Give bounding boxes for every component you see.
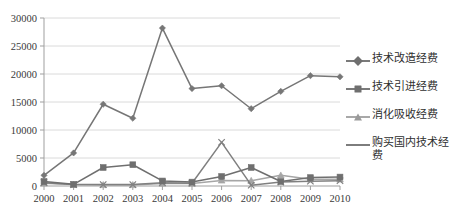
data-point xyxy=(219,174,225,180)
series-1 xyxy=(41,162,343,187)
legend-item-3[interactable]: 购买国内技术经费 xyxy=(346,136,457,162)
x-axis-tick-label: 2004 xyxy=(152,193,174,204)
data-point xyxy=(160,178,166,184)
legend-label: 技术改造经费 xyxy=(370,52,438,65)
legend-label: 消化吸收经费 xyxy=(370,108,438,121)
legend-item-1[interactable]: 技术引进经费 xyxy=(346,80,457,97)
x-axis-tick-label: 2009 xyxy=(300,193,321,204)
y-axis-tick-label: 25000 xyxy=(11,41,37,52)
data-point xyxy=(308,175,314,181)
x-axis-tick-label: 2000 xyxy=(34,193,55,204)
x-axis-tick-label: 2003 xyxy=(122,193,143,204)
y-axis-tick-label: 5000 xyxy=(16,153,37,164)
square-marker-icon xyxy=(346,82,370,96)
data-point xyxy=(130,162,136,168)
data-point xyxy=(307,73,313,79)
diamond-marker-icon xyxy=(346,54,370,68)
legend-label: 技术引进经费 xyxy=(370,80,438,93)
data-point xyxy=(248,165,254,171)
x-axis-tick-label: 2005 xyxy=(182,193,203,204)
data-point xyxy=(189,179,195,185)
y-axis-tick-label: 20000 xyxy=(11,69,37,80)
data-point xyxy=(159,25,165,31)
data-point xyxy=(218,139,224,145)
data-point xyxy=(100,165,106,171)
data-point xyxy=(278,179,284,185)
y-axis-tick-label: 10000 xyxy=(11,125,37,136)
x-axis-tick-label: 2006 xyxy=(211,193,232,204)
data-point xyxy=(278,88,284,94)
triangle-marker-icon xyxy=(346,110,370,124)
y-axis-tick-label: 30000 xyxy=(11,13,37,24)
y-axis-tick-label: 15000 xyxy=(11,97,37,108)
data-point xyxy=(41,179,47,185)
x-axis-tick-label: 2010 xyxy=(330,193,351,204)
data-point xyxy=(71,181,77,187)
legend-label: 购买国内技术经费 xyxy=(370,136,454,162)
line-marker-icon xyxy=(346,138,370,152)
data-point xyxy=(337,174,343,180)
y-axis-tick-label: 0 xyxy=(32,181,37,192)
legend-item-2[interactable]: 消化吸收经费 xyxy=(346,108,457,125)
x-axis-tick-label: 2001 xyxy=(63,193,84,204)
x-axis-tick-label: 2007 xyxy=(241,193,262,204)
data-point xyxy=(337,74,343,80)
chart-legend: 技术改造经费 技术引进经费 消化吸收经费 购买国内技术经费 xyxy=(346,52,457,192)
line-chart: 0500010000150002000025000300002000200120… xyxy=(0,0,457,219)
data-point xyxy=(189,85,195,91)
x-axis-tick-label: 2002 xyxy=(93,193,114,204)
data-point xyxy=(130,115,136,121)
legend-item-0[interactable]: 技术改造经费 xyxy=(346,52,457,69)
series-line xyxy=(44,142,340,185)
x-axis-tick-label: 2008 xyxy=(270,193,291,204)
